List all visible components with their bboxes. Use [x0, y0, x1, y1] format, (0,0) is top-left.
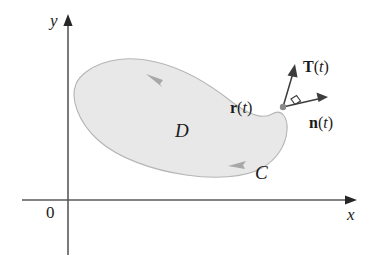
x-axis-arrowhead [345, 195, 357, 204]
x-axis-label: x [347, 206, 355, 223]
greens-theorem-figure: y x 0 D C T(t) n(t) r(t) [0, 0, 378, 262]
curve-point-marker [280, 104, 286, 110]
y-axis-label: y [50, 12, 58, 29]
tangent-vector-label: T(t) [303, 59, 329, 75]
position-paren-close: ) [247, 99, 252, 116]
tangent-vector-shaft [283, 73, 293, 107]
curve-label-c: C [255, 163, 268, 182]
figure-canvas [0, 0, 378, 262]
region-d-shape [74, 59, 287, 177]
tangent-paren-close: ) [323, 58, 328, 75]
normal-vector-arrowhead [317, 93, 329, 103]
origin-label: 0 [46, 204, 55, 221]
region-label-d: D [175, 121, 189, 140]
position-vector-label: r(t) [230, 100, 252, 116]
y-axis-arrowhead [63, 14, 72, 26]
normal-symbol: n [309, 114, 318, 131]
normal-paren-close: ) [328, 114, 333, 131]
normal-vector-label: n(t) [309, 115, 333, 131]
tangent-vector-arrowhead [288, 64, 298, 78]
tangent-symbol: T [303, 58, 314, 75]
